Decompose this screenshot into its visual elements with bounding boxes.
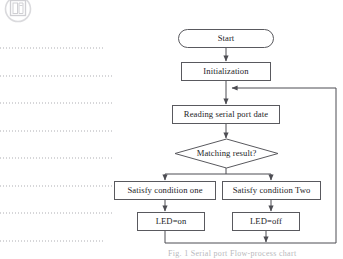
- flow-node-led-off-label: LED=off: [250, 217, 282, 226]
- flow-node-reading-serial-port-date-label: Reading serial port date: [184, 110, 268, 119]
- flow-node-initialization-label: Initialization: [203, 67, 248, 76]
- flow-node-led-on-label: LED=on: [156, 217, 187, 226]
- figure-caption: Fig. 1 Serial port Flow-process chart: [168, 249, 308, 259]
- flow-node-matching-result-decision[interactable]: Matching result?: [175, 146, 278, 161]
- flow-node-satisfy-condition-two[interactable]: Satisfy condition Two: [222, 181, 321, 200]
- flow-node-satisfy-condition-two-label: Satisfy condition Two: [233, 186, 311, 195]
- document-page: Start Initialization Reading serial port…: [0, 0, 343, 259]
- flow-node-initialization[interactable]: Initialization: [181, 62, 271, 81]
- flow-node-led-off[interactable]: LED=off: [232, 212, 300, 231]
- flow-node-matching-result-label: Matching result?: [197, 149, 257, 158]
- flow-node-reading-serial-port-date[interactable]: Reading serial port date: [172, 105, 280, 124]
- flow-node-led-on[interactable]: LED=on: [137, 212, 205, 231]
- flow-node-start[interactable]: Start: [178, 29, 274, 48]
- figure-caption-text: Fig. 1 Serial port Flow-process chart: [168, 249, 296, 258]
- flow-node-start-label: Start: [218, 34, 235, 43]
- flow-node-satisfy-condition-one-label: Satisfy condition one: [127, 186, 202, 195]
- flow-node-satisfy-condition-one[interactable]: Satisfy condition one: [114, 181, 216, 200]
